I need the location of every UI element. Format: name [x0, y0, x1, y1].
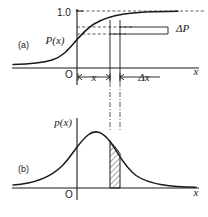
- panel-label-b: (b): [18, 164, 29, 174]
- ytick-label-1p0: 1.0: [57, 7, 71, 18]
- annotation-label-delta-x-span: Δx: [137, 71, 149, 83]
- x-axis-label-panel-b: x: [193, 186, 199, 198]
- panel-a: 1.0 P(x) ΔP x Δx O x (a): [12, 7, 204, 85]
- panel-b: p(x) O x (b): [12, 116, 199, 200]
- curve-label-lowercase-p-of-x: p(x): [53, 116, 72, 129]
- curve-cumulative-distribution: [13, 11, 178, 64]
- curve-label-capital-p-of-x: P(x): [45, 34, 65, 47]
- origin-label-panel-a: O: [65, 69, 73, 80]
- panel-label-a: (a): [18, 40, 29, 50]
- curve-probability-density: [13, 132, 196, 187]
- annotation-label-x-span: x: [91, 71, 97, 83]
- figure-container: 1.0 P(x) ΔP x Δx O x (a) p(x) O: [0, 0, 208, 217]
- origin-label-panel-b: O: [65, 189, 73, 200]
- x-axis-label-panel-a: x: [193, 65, 199, 77]
- annotation-label-delta-p: ΔP: [175, 22, 189, 34]
- figure-svg: 1.0 P(x) ΔP x Δx O x (a) p(x) O: [0, 0, 208, 217]
